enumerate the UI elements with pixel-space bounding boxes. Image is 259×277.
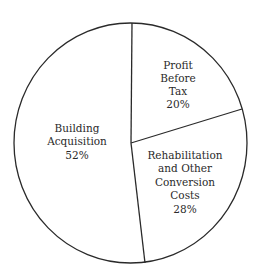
svg-text:28%: 28% — [173, 203, 196, 215]
svg-text:Before: Before — [160, 72, 195, 84]
svg-text:Rehabilitation: Rehabilitation — [147, 149, 222, 161]
label-line: Tax — [169, 85, 187, 97]
svg-text:Acquisition: Acquisition — [46, 135, 107, 147]
label-line: Acquisition — [46, 135, 107, 147]
svg-text:Conversion: Conversion — [155, 176, 215, 188]
svg-text:Building: Building — [55, 122, 100, 134]
svg-text:52%: 52% — [65, 149, 88, 161]
label-line: Building — [55, 122, 100, 134]
label-value: 20% — [166, 98, 189, 110]
label-value: 52% — [65, 149, 88, 161]
svg-text:Tax: Tax — [169, 85, 187, 97]
label-value: 28% — [173, 203, 196, 215]
label-line: and Other — [158, 162, 213, 174]
label-line: Before — [160, 72, 195, 84]
label-line: Costs — [170, 189, 199, 201]
label-line: Conversion — [155, 176, 215, 188]
svg-text:Costs: Costs — [170, 189, 199, 201]
svg-text:Profit: Profit — [163, 59, 193, 71]
pie-chart: Profit Before Tax 20% Rehabilitation and… — [0, 0, 259, 277]
svg-text:and Other: and Other — [158, 162, 213, 174]
svg-text:20%: 20% — [166, 98, 189, 110]
label-line: Rehabilitation — [147, 149, 222, 161]
label-line: Profit — [163, 59, 193, 71]
